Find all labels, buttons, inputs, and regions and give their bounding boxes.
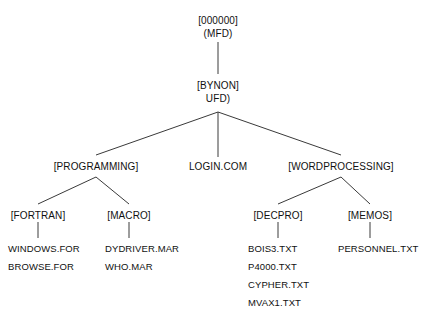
node-decpro: [DECPRO] (253, 209, 302, 222)
file-item: DYDRIVER.MAR (105, 240, 179, 258)
node-root-mfd: [000000] (MFD) (198, 14, 238, 40)
node-login-com: LOGIN.COM (189, 160, 247, 173)
edge-programming-to-macro (96, 177, 129, 204)
edge-bynon-to-programming (96, 112, 218, 155)
directory-tree-diagram: [000000] (MFD) [BYNON] UFD) [PROGRAMMING… (0, 0, 433, 321)
file-item: MVAX1.TXT (248, 294, 309, 312)
node-memos: [MEMOS] (348, 209, 392, 222)
file-list-fortran: WINDOWS.FOR BROWSE.FOR (8, 240, 80, 276)
file-item: BOIS3.TXT (248, 240, 309, 258)
file-item: WINDOWS.FOR (8, 240, 80, 258)
file-list-decpro: BOIS3.TXT P4000.TXT CYPHER.TXT MVAX1.TXT (248, 240, 309, 312)
edge-wordprocessing-to-memos (341, 177, 370, 204)
file-item: CYPHER.TXT (248, 276, 309, 294)
node-fortran: [FORTRAN] (11, 209, 66, 222)
root-type-label: (MFD) (198, 27, 238, 40)
node-bynon-ufd: [BYNON] UFD) (197, 79, 239, 105)
file-item: WHO.MAR (105, 258, 179, 276)
edge-programming-to-fortran (38, 177, 96, 204)
node-wordprocessing: [WORDPROCESSING] (288, 160, 394, 173)
edge-bynon-to-wordprocessing (218, 112, 341, 155)
root-uic-label: [000000] (198, 14, 238, 27)
node-programming: [PROGRAMMING] (54, 160, 139, 173)
file-list-macro: DYDRIVER.MAR WHO.MAR (105, 240, 179, 276)
file-item: P4000.TXT (248, 258, 309, 276)
node-macro: [MACRO] (107, 209, 150, 222)
bynon-type-label: UFD) (197, 92, 239, 105)
file-item: PERSONNEL.TXT (338, 240, 418, 258)
edge-wordprocessing-to-decpro (278, 177, 341, 204)
bynon-name-label: [BYNON] (197, 79, 239, 92)
file-list-memos: PERSONNEL.TXT (338, 240, 418, 258)
file-item: BROWSE.FOR (8, 258, 80, 276)
